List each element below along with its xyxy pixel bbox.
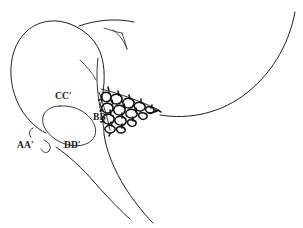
- lower-sweep-curve: [160, 12, 295, 117]
- figure-root: CC′ BB′ AA′ DD′: [0, 0, 303, 228]
- stalk-left-curve: [56, 147, 130, 219]
- label-dd-prime: DD′: [64, 141, 81, 151]
- label-aa-prime: AA′: [17, 141, 34, 151]
- upper-sweep-curve: [79, 20, 134, 26]
- aa-hook-mark: [41, 140, 50, 152]
- upper-fork-branch: [104, 28, 127, 49]
- outer-body-outline: [11, 21, 104, 133]
- label-bb-prime: BB′: [93, 113, 109, 123]
- aa-crescent-mark: [29, 128, 33, 137]
- label-cc-prime: CC′: [55, 92, 72, 102]
- inner-hair-fork: [80, 60, 96, 80]
- figure-canvas: [0, 0, 303, 228]
- stalk-right-curve: [104, 134, 153, 223]
